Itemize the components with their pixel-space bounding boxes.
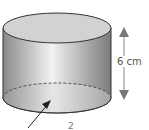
- dimension-arrow-up-icon: [119, 27, 129, 37]
- height-label: 6 cm: [117, 56, 142, 67]
- dimension-arrow-down-icon: [119, 90, 129, 100]
- partial-text: 2: [68, 121, 74, 130]
- cylinder-top: [3, 13, 111, 43]
